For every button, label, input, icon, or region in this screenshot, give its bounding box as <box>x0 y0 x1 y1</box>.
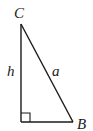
right-angle-marker <box>21 113 30 122</box>
side-label-h: h <box>7 63 15 79</box>
vertex-label-c: C <box>14 5 25 21</box>
side-label-a: a <box>52 63 60 79</box>
vertex-label-b: B <box>77 116 86 131</box>
triangle <box>21 24 73 122</box>
right-triangle-diagram: C B h a <box>0 0 93 131</box>
side-a-hypotenuse <box>21 24 73 122</box>
